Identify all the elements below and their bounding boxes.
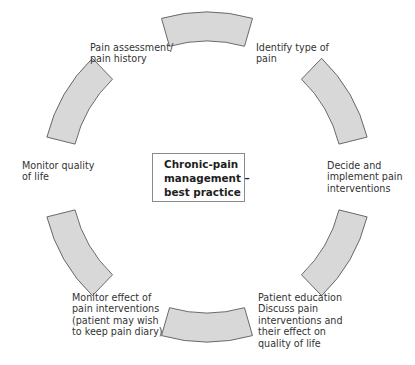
step-line: their effect on (258, 326, 343, 337)
cycle-arrow-segment-2 (302, 58, 368, 144)
step-identify-type: Identify type of pain (256, 42, 329, 65)
cycle-arrow-segment-6 (47, 58, 113, 144)
step-line: Decide and (327, 160, 403, 171)
center-title-line-1: Chronic-pain (164, 157, 244, 171)
step-pain-assessment: Pain assessment/ pain history (90, 42, 173, 65)
step-line: Pain assessment/ (90, 42, 173, 53)
cycle-arrow-segment-1 (162, 12, 253, 46)
step-line: implement pain (327, 171, 403, 182)
step-line: of life (22, 171, 94, 182)
step-line: interventions and (258, 315, 343, 326)
step-line: Patient education (258, 292, 343, 303)
step-line: pain (256, 53, 329, 64)
center-title-line-3: best practice (164, 185, 244, 199)
step-line: pain history (90, 53, 173, 64)
cycle-arrow-segment-4 (162, 308, 253, 342)
cycle-arrow-segment-3 (302, 210, 368, 296)
step-line: quality of life (258, 338, 343, 349)
step-line: Discuss pain (258, 303, 343, 314)
step-line: pain interventions (72, 303, 163, 314)
step-line: to keep pain diary) (72, 326, 163, 337)
center-title-box: Chronic-pain management – best practice (152, 153, 245, 202)
center-title-line-2: management – (164, 171, 244, 185)
step-patient-education: Patient education Discuss pain intervent… (258, 292, 343, 349)
step-decide-implement: Decide and implement pain interventions (327, 160, 403, 194)
step-line: Monitor effect of (72, 292, 163, 303)
step-line: Identify type of (256, 42, 329, 53)
step-line: interventions (327, 183, 403, 194)
step-line: Monitor quality (22, 160, 94, 171)
step-monitor-effect: Monitor effect of pain interventions (pa… (72, 292, 163, 338)
step-line: (patient may wish (72, 315, 163, 326)
step-monitor-quality: Monitor quality of life (22, 160, 94, 183)
cycle-arrow-segment-5 (47, 210, 113, 296)
chronic-pain-cycle-diagram: Chronic-pain management – best practice … (0, 0, 415, 365)
